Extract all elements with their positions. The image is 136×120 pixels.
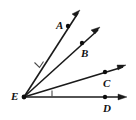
ray-eb-arrowhead — [91, 27, 100, 34]
point-a-dot — [66, 24, 70, 28]
label-b: B — [80, 47, 88, 59]
vertex-e-dot — [22, 95, 27, 100]
ray-ec-arrowhead — [117, 65, 126, 70]
figure-canvas: E A B C D — [0, 0, 136, 120]
label-e: E — [10, 90, 18, 102]
geometry-figure: E A B C D — [0, 0, 136, 120]
point-d-dot — [103, 95, 107, 99]
point-c-dot — [103, 70, 107, 74]
label-d: D — [102, 102, 111, 114]
angle-mark-aeb — [35, 62, 44, 68]
label-a: A — [55, 19, 63, 31]
point-b-dot — [80, 41, 84, 45]
label-c: C — [103, 77, 111, 89]
ray-ea-arrowhead — [72, 10, 80, 17]
labels-group: E A B C D — [10, 19, 111, 114]
ray-ed-arrowhead — [118, 94, 127, 100]
